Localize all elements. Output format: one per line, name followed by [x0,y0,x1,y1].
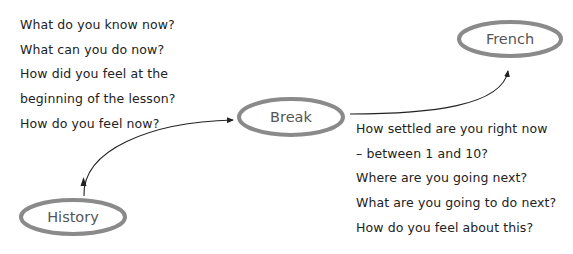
lesson-transition-diagram: History Break French What do you know no… [0,0,573,254]
connector-line [350,71,508,114]
question-line: How do you feel about this? [356,216,556,241]
node-french: French [459,22,561,56]
after-history-questions: What do you know now? What can you do no… [20,13,175,136]
node-break: Break [239,99,343,135]
node-label-break: Break [270,109,312,125]
question-line: – between 1 and 10? [356,142,556,167]
question-line: beginning of the lesson? [20,87,175,112]
edge-break-to-french [350,71,508,114]
question-line: How settled are you right now [356,117,556,142]
question-line: How did you feel at the [20,62,175,87]
before-french-questions: How settled are you right now – between … [356,117,556,240]
node-label-history: History [47,209,99,225]
node-label-french: French [486,31,534,47]
question-line: What can you do now? [20,38,175,63]
question-line: Where are you going next? [356,166,556,191]
node-history: History [21,200,125,234]
question-line: What are you going to do next? [356,191,556,216]
question-line: What do you know now? [20,13,175,38]
question-line: How do you feel now? [20,112,175,137]
